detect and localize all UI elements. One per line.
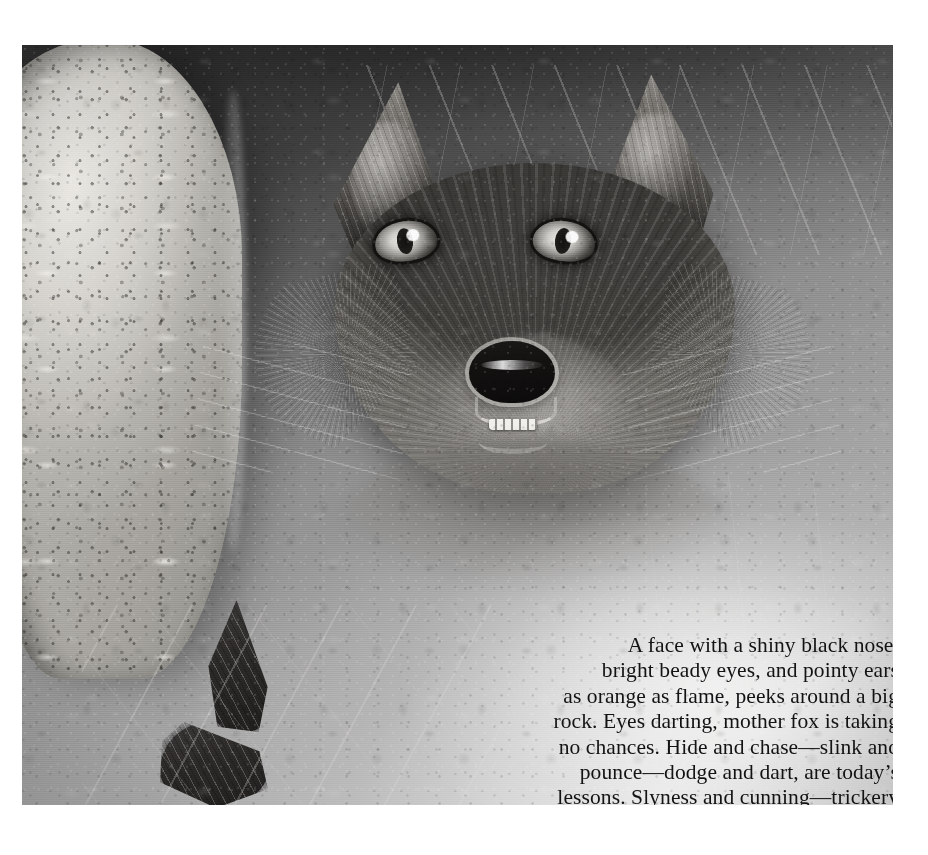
fox-paw-fur-lower — [160, 722, 268, 805]
fox-eye-glint-left — [406, 228, 420, 241]
story-caption: A face with a shiny black nose, bright b… — [476, 633, 893, 805]
fox-nose-highlight — [481, 360, 543, 370]
fox-whiskers-left — [191, 334, 413, 485]
fox-teeth — [489, 419, 537, 430]
book-page: A face with a shiny black nose, bright b… — [0, 0, 928, 855]
fox-paw-upper — [204, 600, 278, 732]
fox-paws — [152, 600, 412, 805]
rock-edge-highlight — [220, 90, 246, 551]
fox-nose — [469, 341, 555, 403]
fox-illustration: A face with a shiny black nose, bright b… — [22, 45, 893, 805]
fox-eye-glint-right — [565, 230, 579, 243]
fox-paw-lower — [160, 722, 268, 805]
fox-paw-fur-upper — [204, 600, 278, 732]
